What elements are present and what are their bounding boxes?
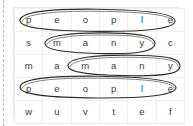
letter-cell-r3c4[interactable]: a	[99, 55, 127, 78]
letter-cell-r4c3[interactable]: o	[71, 78, 99, 101]
table-row: s m a n y c	[15, 32, 185, 55]
table-row: w u v t e f	[15, 101, 185, 124]
puzzle-canvas: p e o p l e s m a n y c m a	[0, 0, 193, 126]
letter-cell-r1c3[interactable]: o	[71, 9, 99, 32]
table-row: m a m a n y	[15, 55, 185, 78]
letter-cell-r4c2[interactable]: e	[43, 78, 71, 101]
letter-cell-r5c1[interactable]: w	[15, 101, 43, 124]
letter-cell-r1c5[interactable]: l	[128, 9, 156, 32]
letter-cell-r3c5[interactable]: n	[128, 55, 156, 78]
letter-cell-r2c6[interactable]: c	[156, 32, 184, 55]
letter-cell-r3c6[interactable]: y	[156, 55, 184, 78]
letter-cell-r3c3[interactable]: m	[71, 55, 99, 78]
table-row: p e o p l e	[15, 78, 185, 101]
letter-cell-r2c4[interactable]: n	[99, 32, 127, 55]
letter-cell-r1c2[interactable]: e	[43, 9, 71, 32]
letter-cell-r2c5[interactable]: y	[128, 32, 156, 55]
letter-cell-r4c1[interactable]: p	[15, 78, 43, 101]
letter-cell-r5c6[interactable]: f	[156, 101, 184, 124]
letter-cell-r5c2[interactable]: u	[43, 101, 71, 124]
letter-cell-r4c5[interactable]: l	[128, 78, 156, 101]
letter-grid: p e o p l e s m a n y c m a	[14, 8, 185, 124]
table-row: p e o p l e	[15, 9, 185, 32]
letter-cell-r2c3[interactable]: a	[71, 32, 99, 55]
letter-cell-r2c2[interactable]: m	[43, 32, 71, 55]
letter-cell-r5c5[interactable]: e	[128, 101, 156, 124]
letter-cell-r2c1[interactable]: s	[15, 32, 43, 55]
letter-cell-r3c1[interactable]: m	[15, 55, 43, 78]
letter-cell-r1c4[interactable]: p	[99, 9, 127, 32]
letter-cell-r1c1[interactable]: p	[15, 9, 43, 32]
letter-cell-r4c4[interactable]: p	[99, 78, 127, 101]
letter-cell-r1c6[interactable]: e	[156, 9, 184, 32]
letter-grid-container: p e o p l e s m a n y c m a	[13, 7, 179, 119]
letter-cell-r3c2[interactable]: a	[43, 55, 71, 78]
letter-cell-r5c3[interactable]: v	[71, 101, 99, 124]
left-guide-line	[3, 0, 4, 126]
letter-cell-r5c4[interactable]: t	[99, 101, 127, 124]
letter-cell-r4c6[interactable]: e	[156, 78, 184, 101]
